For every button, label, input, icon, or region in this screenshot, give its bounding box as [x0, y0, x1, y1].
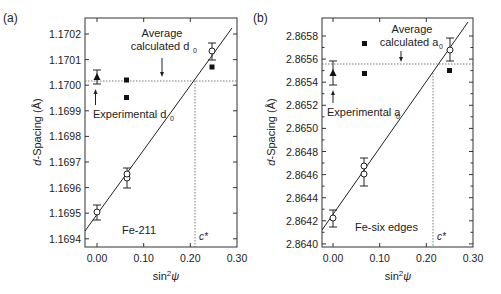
- figure: (a) 1.1702 1.1701 1.1700 1.1699 1.1698 1…: [0, 0, 501, 294]
- panel-a-x-ticks: [97, 18, 190, 247]
- x-tick-label: 0.00: [323, 252, 344, 264]
- panel-a-y-tick-labels: 1.1702 1.1701 1.1700 1.1699 1.1698 1.169…: [49, 28, 81, 245]
- y-tick-label: 2.8644: [286, 192, 318, 204]
- x-tick-label: 0.20: [416, 252, 437, 264]
- y-tick-label: 2.8652: [286, 99, 318, 111]
- panel-b-exp-arrow-icon: [331, 90, 335, 103]
- panel-a-average-label-line2: calculated d: [131, 40, 190, 52]
- panel-a-avg-arrow-icon: [160, 58, 164, 77]
- panel-a-x-tick-labels: 0.00 0.10 0.20 0.30: [87, 252, 248, 264]
- panel-a-measured-circles: [93, 43, 216, 220]
- y-tick-label: 2.8642: [286, 215, 318, 227]
- panel-a-experimental-label: Experimental d: [93, 108, 166, 120]
- y-tick-label: 1.1695: [49, 207, 81, 219]
- panel-b-experimental-subscript: 0: [396, 113, 400, 120]
- x-tick-label: 0.30: [227, 252, 248, 264]
- panel-b-y-tick-labels: 2.8658 2.8656 2.8654 2.8652 2.8650 2.864…: [286, 30, 318, 250]
- panel-a-exp-arrow-icon: [94, 89, 98, 105]
- panel-a-c-star-label: c*: [199, 231, 209, 242]
- x-tick-label: 0.10: [369, 252, 390, 264]
- panel-b-average-label-line2: calculated a: [380, 36, 440, 48]
- panel-b-material-label: Fe-six edges: [355, 221, 418, 233]
- y-tick-label: 1.1699: [49, 105, 81, 117]
- y-tick-label: 2.8640: [286, 238, 318, 250]
- y-tick-label: 1.1701: [49, 54, 81, 66]
- panel-a-y-axis-label: d-Spacing (Å): [31, 98, 43, 165]
- panel-b-avg-arrow-icon: [399, 51, 403, 62]
- x-tick-label: 0.10: [133, 252, 154, 264]
- panel-a-experimental-point: [93, 70, 101, 84]
- y-tick-label: 2.8658: [286, 30, 318, 42]
- y-tick-label: 2.8646: [286, 169, 318, 181]
- y-tick-label: 1.1698: [49, 130, 81, 142]
- panel-b-c-star-label: c*: [437, 231, 447, 242]
- panel-b-average-subscript: 0: [439, 43, 443, 50]
- panel-b-experimental-label: Experimental a: [327, 106, 401, 118]
- panel-a-x-axis-label: sin2ψ: [153, 269, 180, 282]
- y-tick-label: 2.8648: [286, 146, 318, 158]
- x-tick-label: 0.20: [180, 252, 201, 264]
- x-tick-label: 0.00: [87, 252, 108, 264]
- panel-b-x-tick-labels: 0.00 0.10 0.20 0.30: [323, 252, 484, 264]
- y-tick-label: 1.1694: [49, 233, 81, 245]
- panel-b: (b) 2.8658 2.8656 2.86: [253, 11, 483, 282]
- panel-b-y-ticks: [322, 36, 473, 244]
- panel-a-average-label-line1: Average: [142, 27, 183, 39]
- panel-a-material-label: Fe-211: [122, 224, 156, 236]
- y-tick-label: 1.1697: [49, 156, 81, 168]
- panel-b-average-label-line1: Average: [392, 23, 433, 35]
- y-tick-label: 2.8654: [286, 76, 318, 88]
- y-tick-label: 1.1696: [49, 182, 81, 194]
- panel-b-fit-line: [322, 22, 468, 230]
- y-tick-label: 2.8656: [286, 53, 318, 65]
- x-tick-label: 0.30: [463, 252, 484, 264]
- panel-a-calculated-squares: [124, 65, 215, 101]
- panel-b-label: (b): [253, 11, 268, 25]
- y-tick-label: 1.1700: [49, 79, 81, 91]
- panel-a-experimental-subscript: 0: [170, 115, 174, 122]
- panel-a-average-subscript: 0: [193, 47, 197, 54]
- panel-a-fit-line: [85, 28, 232, 231]
- panel-b-measured-circles: [329, 38, 454, 227]
- y-tick-label: 2.8650: [286, 122, 318, 134]
- panel-b-experimental-point: [329, 61, 337, 85]
- panel-b-y-axis-label: d-Spacing (Å): [265, 98, 277, 165]
- panel-a-label: (a): [3, 11, 18, 25]
- panel-b-x-axis-label: sin2ψ: [385, 269, 412, 282]
- panel-b-x-ticks: [333, 18, 426, 247]
- y-tick-label: 1.1702: [49, 28, 81, 40]
- panel-a: (a) 1.1702 1.1701 1.1700 1.1699 1.1698 1…: [3, 11, 247, 282]
